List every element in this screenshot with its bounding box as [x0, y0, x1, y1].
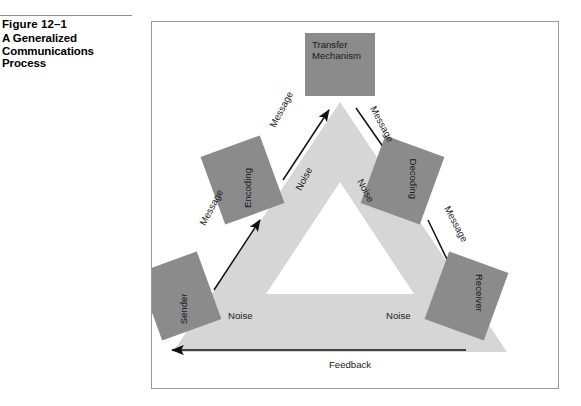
node-transfer-mechanism-label-line-1: Transfer [312, 39, 347, 50]
figure-title-line-1: A Generalized [2, 32, 140, 45]
figure-title-line-3: Process [2, 57, 140, 70]
edge-label-feedback: Feedback [329, 359, 371, 370]
node-decoding-label: Decoding [408, 158, 419, 199]
noise-label-bottom-right: Noise [386, 310, 411, 321]
node-transfer-mechanism-label: Transfer Mechanism [312, 39, 361, 61]
node-encoding-label: Encoding [242, 168, 253, 208]
figure-number: Figure 12–1 [2, 18, 140, 31]
figure-title: A Generalized Communications Process [2, 32, 140, 70]
node-transfer-mechanism[interactable]: Transfer Mechanism [305, 33, 375, 96]
node-transfer-mechanism-label-line-2: Mechanism [312, 50, 361, 61]
figure-page: Figure 12–1 A Generalized Communications… [0, 0, 581, 406]
figure-title-line-2: Communications [2, 45, 140, 58]
figure-caption: Figure 12–1 A Generalized Communications… [0, 18, 140, 70]
node-sender-label: Sender [178, 293, 189, 324]
node-receiver-label: Receiver [474, 274, 485, 312]
caption-rule [0, 15, 132, 16]
diagram-stage: Transfer Mechanism Encoding Decoding Sen… [152, 22, 558, 388]
diagram-frame: Transfer Mechanism Encoding Decoding Sen… [151, 21, 559, 389]
noise-label-bottom-left: Noise [228, 310, 253, 321]
